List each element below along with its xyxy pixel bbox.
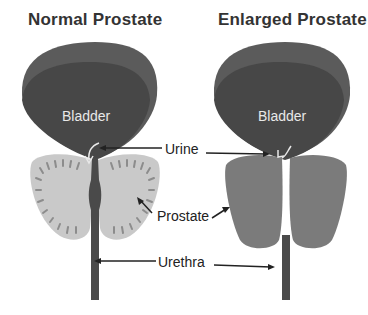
- prostate-label: Prostate: [157, 208, 209, 224]
- enlarged-prostate-illustration: [214, 42, 350, 300]
- bladder-label-normal: Bladder: [62, 108, 110, 124]
- urethra-label: Urethra: [158, 254, 205, 270]
- bladder-label-enlarged: Bladder: [258, 108, 306, 124]
- urine-label: Urine: [165, 141, 198, 157]
- normal-prostate-title: Normal Prostate: [28, 10, 162, 30]
- enlarged-prostate-title: Enlarged Prostate: [218, 10, 367, 30]
